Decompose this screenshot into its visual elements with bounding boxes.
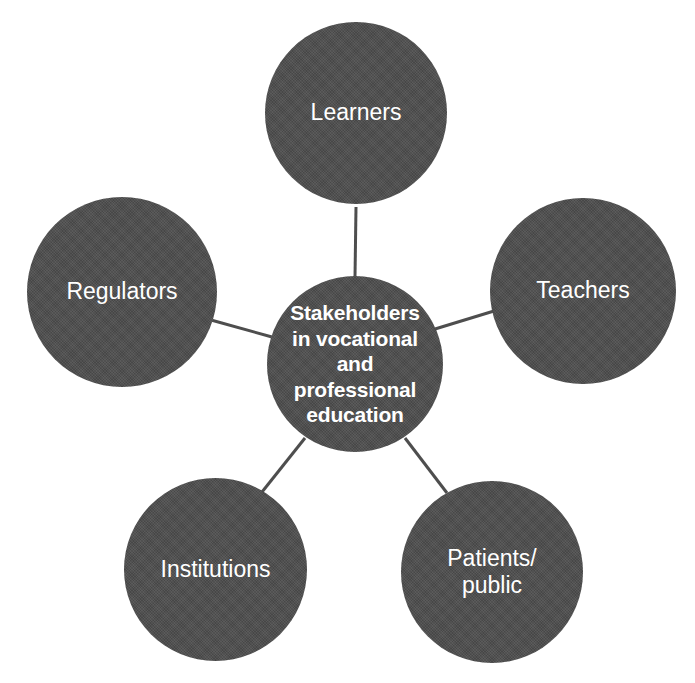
stakeholder-diagram: Learners Teachers Patients/ public Insti… — [0, 0, 695, 683]
node-regulators-label: Regulators — [58, 278, 185, 305]
connector-hub-regulators — [211, 320, 272, 337]
node-teachers[interactable]: Teachers — [490, 198, 676, 384]
connector-hub-teachers — [435, 311, 494, 329]
connector-hub-institutions — [262, 438, 305, 492]
node-learners-label: Learners — [303, 99, 410, 126]
node-teachers-label: Teachers — [528, 277, 637, 304]
node-patients-public-label: Patients/ public — [439, 545, 545, 599]
node-hub-label: Stakeholders in vocational and professio… — [284, 300, 426, 428]
node-patients-public[interactable]: Patients/ public — [401, 481, 583, 663]
node-institutions-label: Institutions — [153, 556, 279, 583]
connector-hub-learners — [355, 207, 356, 277]
node-learners[interactable]: Learners — [265, 22, 447, 204]
node-hub-stakeholders[interactable]: Stakeholders in vocational and professio… — [267, 276, 443, 452]
node-institutions[interactable]: Institutions — [124, 478, 307, 661]
node-regulators[interactable]: Regulators — [27, 197, 217, 387]
connector-hub-patients-public — [405, 438, 447, 493]
